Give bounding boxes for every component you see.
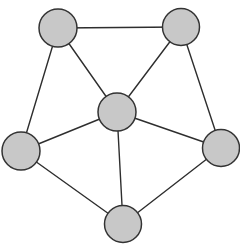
node-right	[203, 130, 240, 167]
node-top-right	[163, 9, 200, 46]
node-center	[98, 93, 136, 131]
node-layer	[2, 9, 240, 243]
node-left	[2, 132, 40, 170]
node-bottom	[105, 206, 142, 243]
graph-diagram	[0, 0, 240, 245]
node-top-left	[39, 9, 77, 47]
